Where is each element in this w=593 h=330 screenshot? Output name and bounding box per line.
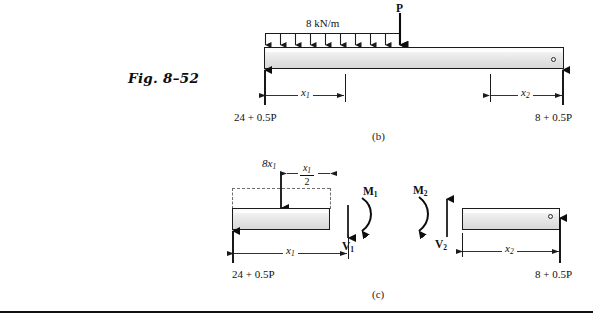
fbd-right-group: V2 M2 8 + 0.5P: [390, 0, 593, 300]
caption-c: (c): [372, 288, 384, 300]
diagram-c-group: 8x1 x1 2: [0, 0, 593, 310]
x2-dimension-label-c: x2: [502, 242, 517, 256]
page-bottom-rule: [0, 311, 593, 313]
x1-dimension-label-c: x1: [283, 244, 298, 258]
fbd-left-group: 8x1 x1 2: [0, 0, 400, 300]
figure-page: Fig. 8–52 8 kN/m: [0, 0, 593, 330]
